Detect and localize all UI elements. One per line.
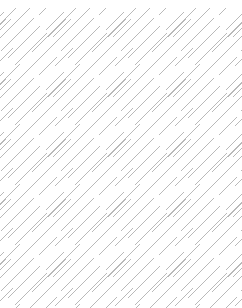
pattern-canvas [0, 0, 242, 308]
hatch-fill-rect [0, 0, 242, 308]
diagonal-hatch-graphic [0, 0, 242, 308]
